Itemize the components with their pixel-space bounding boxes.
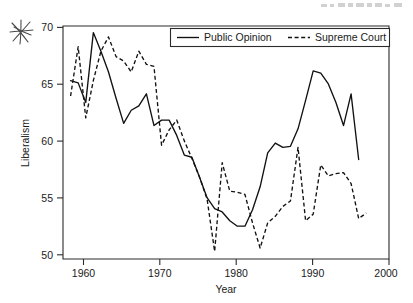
y-tick-label-70: 70 [41, 21, 53, 33]
y-tick-label-50: 50 [41, 249, 53, 261]
x-tick-label-1960: 1960 [72, 267, 96, 279]
series-supreme-court-line [71, 37, 367, 251]
series-public-opinion-line [71, 33, 359, 227]
x-axis-title: Year [215, 283, 237, 295]
y-tick-label-60: 60 [41, 135, 53, 147]
x-axis-ticks [84, 259, 390, 265]
chart-figure: 70 65 60 55 50 1960 1970 1980 1990 2000 … [0, 0, 413, 303]
x-tick-label-1980: 1980 [225, 267, 249, 279]
liberalism-time-series-plot: 70 65 60 55 50 1960 1970 1980 1990 2000 … [0, 0, 413, 303]
y-tick-label-65: 65 [41, 78, 53, 90]
x-tick-label-1990: 1990 [301, 267, 325, 279]
plot-frame [63, 26, 389, 259]
y-axis-ticks [57, 27, 63, 254]
legend-label-public-opinion: Public Opinion [204, 31, 272, 43]
x-axis-tick-labels: 1960 1970 1980 1990 2000 [72, 267, 398, 279]
y-axis-title: Liberalism [19, 119, 31, 167]
y-axis-tick-labels: 70 65 60 55 50 [41, 21, 53, 260]
x-tick-label-1970: 1970 [148, 267, 172, 279]
legend-label-supreme-court: Supreme Court [315, 31, 386, 43]
x-tick-label-2000: 2000 [374, 267, 398, 279]
y-tick-label-55: 55 [41, 192, 53, 204]
chart-legend: Public Opinion Supreme Court [171, 29, 390, 47]
